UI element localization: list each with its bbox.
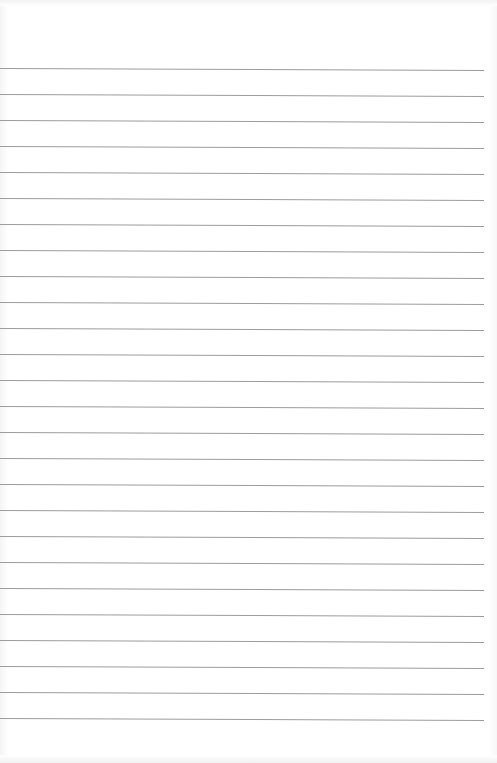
ruled-line (0, 224, 484, 227)
ruled-line (0, 510, 484, 513)
ruled-line (0, 68, 484, 71)
ruled-line (0, 718, 484, 721)
ruled-line (0, 94, 484, 97)
ruled-line (0, 562, 484, 565)
lined-paper-page (0, 0, 497, 763)
ruled-line (0, 432, 484, 435)
top-edge-shadow (0, 0, 497, 6)
ruled-line (0, 614, 484, 617)
ruled-line (0, 172, 484, 175)
ruled-line (0, 536, 484, 539)
ruled-line (0, 458, 484, 461)
ruled-line (0, 120, 484, 123)
ruled-line (0, 692, 484, 695)
bottom-edge-shadow (0, 755, 497, 763)
ruled-line (0, 276, 484, 279)
ruled-line (0, 588, 484, 591)
ruled-line (0, 354, 484, 357)
ruled-line (0, 198, 484, 201)
ruled-line (0, 406, 484, 409)
ruled-line (0, 146, 484, 149)
ruled-line (0, 666, 484, 669)
ruled-line (0, 302, 484, 305)
ruled-line (0, 640, 484, 643)
ruled-line (0, 328, 484, 331)
ruled-line (0, 484, 484, 487)
ruled-line (0, 380, 484, 383)
ruled-line (0, 250, 484, 253)
